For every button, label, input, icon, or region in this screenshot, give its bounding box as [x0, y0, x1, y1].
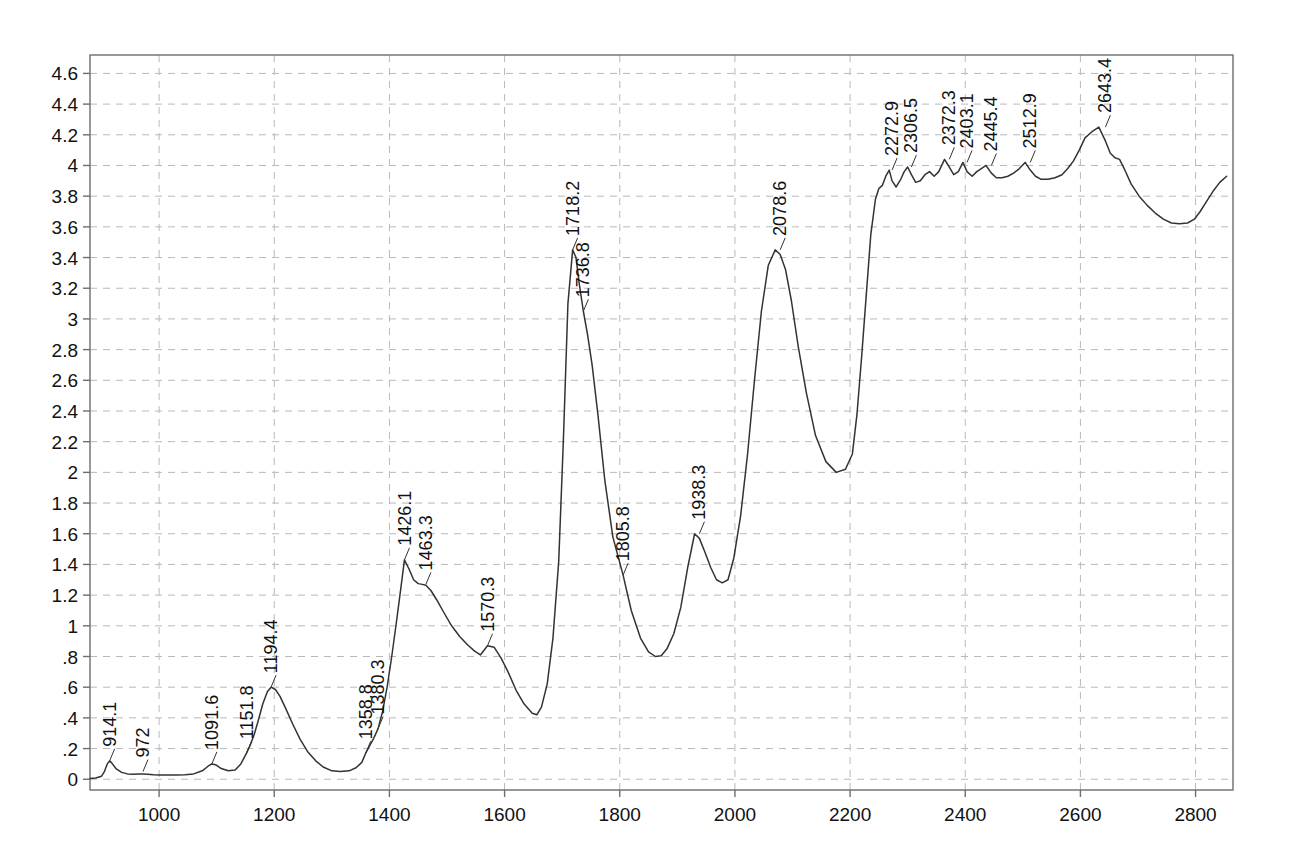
- peak-leader-line: [991, 153, 996, 165]
- x-tick-label: 2600: [1059, 804, 1101, 825]
- peak-leader-line: [623, 563, 628, 575]
- peak-label: 972: [133, 728, 153, 758]
- peak-label: 2272.9: [882, 101, 902, 156]
- y-tick-label: 1: [67, 616, 78, 637]
- y-tick-label: 1.2: [52, 585, 78, 606]
- y-tick-label: 3.4: [52, 248, 79, 269]
- x-tick-label: 1000: [138, 804, 180, 825]
- y-tick-label: 4: [67, 155, 78, 176]
- peak-label: 2306.5: [901, 98, 921, 153]
- x-tick-label: 1200: [253, 804, 295, 825]
- peak-label: 1426.1: [395, 491, 415, 546]
- y-tick-label: .2: [62, 739, 78, 760]
- y-tick-label: 3.8: [52, 186, 78, 207]
- y-tick-label: 1.6: [52, 524, 78, 545]
- peak-leader-line: [1105, 115, 1110, 127]
- y-tick-label: 1.4: [52, 554, 79, 575]
- peak-leader-line: [366, 741, 371, 753]
- y-tick-label: 4.6: [52, 63, 78, 84]
- peak-label: 1194.4: [261, 619, 281, 673]
- peak-label: 1570.3: [478, 577, 498, 632]
- peak-label: 2445.4: [981, 96, 1001, 151]
- x-tick-label: 1400: [368, 804, 410, 825]
- y-tick-label: .6: [62, 677, 78, 698]
- peak-label: 1718.2: [563, 181, 583, 236]
- peak-leader-line: [110, 749, 115, 761]
- y-tick-label: 2.8: [52, 340, 78, 361]
- x-tick-label: 2800: [1174, 804, 1216, 825]
- peak-leader-line: [487, 634, 492, 646]
- peak-label: 1805.8: [613, 506, 633, 561]
- peak-leader-line: [143, 760, 148, 772]
- peak-leader-line: [892, 158, 897, 170]
- y-tick-label: 2.2: [52, 432, 78, 453]
- spectrum-trace: [90, 127, 1227, 778]
- peak-label: 2078.6: [770, 181, 790, 236]
- peak-leader-line: [1030, 150, 1035, 162]
- y-tick-label: 2: [67, 462, 78, 483]
- x-tick-label: 1800: [599, 804, 641, 825]
- spectrum-chart-page: 0.2.4.6.811.21.41.61.822.22.42.62.833.23…: [0, 0, 1290, 854]
- peak-label: 1463.3: [416, 515, 436, 570]
- peak-label: 2643.4: [1095, 58, 1115, 113]
- y-tick-label: .8: [62, 647, 78, 668]
- peak-label: 1938.3: [689, 465, 709, 520]
- y-tick-label: 2.6: [52, 370, 78, 391]
- peak-label: 1736.8: [573, 242, 593, 297]
- spectrum-plot: 0.2.4.6.811.21.41.61.822.22.42.62.833.23…: [0, 0, 1290, 854]
- spectrum-curve: [90, 127, 1227, 778]
- peak-leader-line: [780, 238, 785, 250]
- peak-label: 2512.9: [1020, 93, 1040, 148]
- grid-lines: [90, 55, 1233, 790]
- x-axis-ticks: 1000120014001600180020002200240026002800: [138, 790, 1217, 825]
- y-tick-label: 3.2: [52, 278, 78, 299]
- x-tick-label: 2400: [944, 804, 986, 825]
- peak-label: 2403.1: [957, 93, 977, 148]
- y-tick-label: 3: [67, 309, 78, 330]
- y-tick-label: 2.4: [52, 401, 79, 422]
- peak-leader-line: [583, 299, 588, 311]
- peak-leader-line: [967, 150, 972, 162]
- y-tick-label: .4: [62, 708, 78, 729]
- peak-label: 1380.3: [368, 660, 388, 715]
- peak-label: 1091.6: [202, 695, 222, 750]
- y-tick-label: 0: [67, 769, 78, 790]
- peak-leader-line: [271, 675, 276, 687]
- y-axis-ticks: 0.2.4.6.811.21.41.61.822.22.42.62.833.23…: [52, 63, 90, 790]
- peak-leader-line: [404, 548, 409, 560]
- peak-leader-line: [949, 147, 954, 159]
- y-tick-label: 4.2: [52, 125, 78, 146]
- peak-leader-line: [247, 741, 252, 753]
- y-tick-label: 3.6: [52, 217, 78, 238]
- x-tick-label: 2000: [714, 804, 756, 825]
- peak-label: 1151.8: [237, 685, 257, 739]
- y-tick-label: 1.8: [52, 493, 78, 514]
- peak-leader-line: [426, 572, 431, 584]
- x-tick-label: 2200: [829, 804, 871, 825]
- peak-leader-line: [699, 522, 704, 534]
- x-tick-label: 1600: [483, 804, 525, 825]
- y-tick-label: 4.4: [52, 94, 79, 115]
- peak-leader-line: [212, 752, 217, 764]
- peak-label: 914.1: [100, 702, 120, 747]
